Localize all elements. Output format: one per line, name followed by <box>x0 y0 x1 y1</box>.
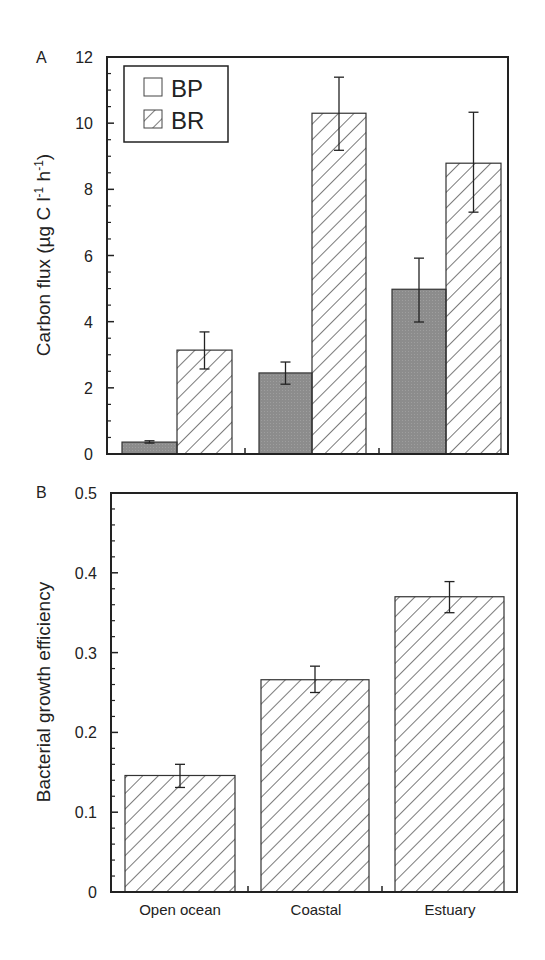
legend-bp-swatch <box>144 78 162 96</box>
legend-br-swatch <box>144 110 162 128</box>
x-axis-category-labels: Open ocean Coastal Estuary <box>139 901 476 918</box>
y-tick-label: 6 <box>84 248 93 265</box>
panel-b-y-label: Bacterial growth efficiency <box>33 581 54 802</box>
panel-a-y-label: Carbon flux (µg C l-1 h-1) <box>32 154 54 356</box>
y-tick-label: 0 <box>88 884 97 901</box>
chart-canvas: A 024681012 Carbon flux (µg C l-1 h-1) B… <box>0 0 545 960</box>
panel-b-label: B <box>36 484 47 501</box>
bar-bp-open-ocean <box>122 442 177 454</box>
bar-bge-coastal <box>261 680 369 892</box>
y-tick-label: 4 <box>84 314 93 331</box>
x-label-coastal: Coastal <box>291 901 342 918</box>
y-tick-label: 0.2 <box>75 724 97 741</box>
x-label-open-ocean: Open ocean <box>139 901 221 918</box>
panel-a-label: A <box>36 49 47 66</box>
y-tick-label: 0.3 <box>75 645 97 662</box>
y-tick-label: 12 <box>75 49 93 66</box>
legend-bp-label: BP <box>171 75 203 102</box>
bar-bge-estuary <box>395 597 504 892</box>
bar-bp-coastal <box>259 373 312 454</box>
x-label-estuary: Estuary <box>425 901 476 918</box>
bar-bge-open-ocean <box>125 775 235 892</box>
bar-br-coastal <box>312 113 366 454</box>
y-tick-label: 10 <box>75 115 93 132</box>
legend-br-label: BR <box>171 107 204 134</box>
y-tick-label: 0 <box>84 446 93 463</box>
y-tick-label: 0.1 <box>75 804 97 821</box>
figure: A 024681012 Carbon flux (µg C l-1 h-1) B… <box>0 0 545 960</box>
panel-a-carbon-flux: A 024681012 Carbon flux (µg C l-1 h-1) B… <box>32 49 508 463</box>
y-tick-label: 0.5 <box>75 485 97 502</box>
y-tick-label: 0.4 <box>75 565 97 582</box>
y-tick-label: 2 <box>84 380 93 397</box>
legend: BP BR <box>124 66 228 142</box>
panel-b-bars <box>125 582 504 892</box>
panel-b-growth-efficiency: B 00.10.20.30.40.5 Bacterial growth effi… <box>33 484 517 918</box>
y-tick-label: 8 <box>84 181 93 198</box>
